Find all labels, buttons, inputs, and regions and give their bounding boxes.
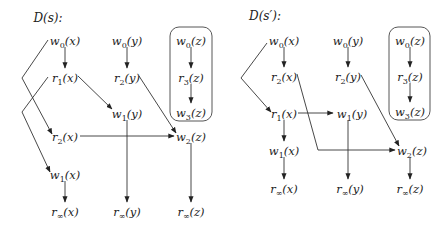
- node-rinfz: r∞(z): [396, 182, 423, 198]
- edges: [241, 43, 410, 179]
- node-w0z: w0(z): [176, 34, 206, 50]
- node-r2x: r2(x): [52, 130, 78, 146]
- node-rinfy: r∞(y): [336, 182, 364, 198]
- diagram-d-s-prime: D(s′): w0(x)r2(x)r1(x)w1(x)r∞(x)w0(y)r2(…: [241, 9, 430, 198]
- diagram-title: D(s′):: [248, 9, 281, 23]
- node-w0y: w0(y): [112, 34, 142, 50]
- node-r3z: r3(z): [397, 70, 423, 86]
- node-w0y: w0(y): [333, 34, 363, 50]
- node-w1x: w1(x): [50, 168, 80, 184]
- node-rinfx: r∞(x): [51, 205, 79, 221]
- node-w1y: w1(y): [112, 107, 142, 123]
- edge-r1x-to-w1y: [78, 76, 112, 109]
- diagram-d-s: D(s): w0(x)r1(x)r2(x)w1(x)r∞(x)w0(y)r2(y…: [22, 11, 212, 221]
- nodes: w0(x)r1(x)r2(x)w1(x)r∞(x)w0(y)r2(y)w1(y)…: [50, 34, 206, 221]
- node-w3z: w3(z): [395, 105, 425, 121]
- node-r2y: r2(y): [335, 70, 361, 86]
- node-w0x: w0(x): [269, 34, 299, 50]
- edge-w0x-to-r2x: [22, 40, 52, 134]
- node-rinfy: r∞(y): [113, 205, 141, 221]
- edge-r1x-to-w1x: [22, 77, 50, 172]
- node-w2z: w2(z): [176, 130, 206, 146]
- edge-w0x-to-r1x: [241, 43, 271, 112]
- node-r3z: r3(z): [178, 71, 204, 87]
- node-w1x: w1(x): [269, 144, 299, 160]
- node-rinfx: r∞(x): [270, 182, 298, 198]
- edges: [22, 40, 191, 202]
- node-r2x: r2(x): [271, 70, 297, 86]
- diagram-title: D(s):: [32, 11, 62, 25]
- node-w0z: w0(z): [395, 34, 425, 50]
- node-r1x: r1(x): [52, 71, 78, 87]
- node-r1x: r1(x): [271, 107, 297, 123]
- diagram-canvas: D(s): w0(x)r1(x)r2(x)w1(x)r∞(x)w0(y)r2(y…: [0, 0, 447, 234]
- node-w1y: w1(y): [337, 107, 367, 123]
- node-r2y: r2(y): [114, 71, 140, 87]
- node-w0x: w0(x): [50, 34, 80, 50]
- node-w3z: w3(z): [176, 106, 206, 122]
- node-w2z: w2(z): [397, 144, 427, 160]
- node-rinfz: r∞(z): [177, 205, 204, 221]
